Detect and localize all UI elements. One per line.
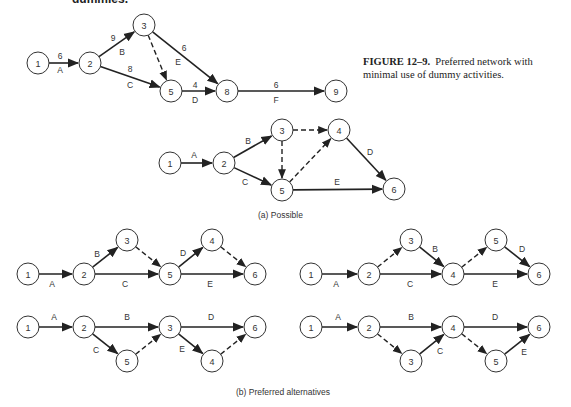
activity-duration: 6 (274, 80, 279, 90)
dummy-activity-4-5 (462, 334, 487, 354)
node-number: 1 (167, 159, 172, 169)
node-number: 4 (450, 270, 455, 280)
event-node: 5 (485, 229, 507, 251)
preferred-alt-1: ABCDE123546 (17, 229, 266, 289)
node-number: 6 (391, 185, 396, 195)
node-number: 6 (536, 323, 541, 333)
node-number: 2 (366, 323, 371, 333)
node-number: 2 (81, 270, 86, 280)
activity-label: C (127, 80, 133, 90)
node-number: 2 (221, 159, 226, 169)
node-number: 5 (493, 357, 498, 367)
event-node: 2 (213, 152, 235, 174)
event-node: 4 (442, 316, 464, 338)
event-node: 6 (383, 178, 405, 200)
activity-label: D (192, 95, 198, 105)
node-number: 1 (308, 323, 313, 333)
event-node: 5 (159, 263, 181, 285)
node-number: 5 (167, 270, 172, 280)
node-number: 4 (209, 357, 214, 367)
node-number: 1 (35, 59, 40, 69)
activity-duration: 8 (128, 64, 133, 74)
activity-label: B (432, 244, 438, 254)
node-number: 4 (209, 236, 214, 246)
event-node: 5 (485, 350, 507, 372)
activity-label: D (180, 248, 186, 258)
activity-label: A (51, 312, 57, 322)
activity-label: C (407, 279, 413, 289)
activity-label: B (94, 249, 100, 259)
activity-label: E (492, 279, 498, 289)
dummy-activity-2-3 (378, 334, 402, 354)
event-node: 6 (528, 263, 550, 285)
activity-3-8 (153, 32, 218, 84)
dummy-activity-3-5 (148, 35, 166, 80)
event-node: 3 (271, 119, 293, 141)
event-node: 1 (17, 263, 39, 285)
figure-caption: FIGURE 12–9. Preferred network with mini… (363, 56, 568, 81)
node-number: 4 (336, 126, 341, 136)
preferred-alt-2: ABCDE123456 (300, 229, 550, 289)
event-node: 8 (216, 80, 238, 102)
event-node: 6 (244, 316, 266, 338)
event-node: 4 (201, 229, 223, 251)
event-node: 3 (116, 229, 138, 251)
event-node: 3 (400, 350, 422, 372)
activity-5-6 (293, 189, 382, 190)
dummy-activity-4-5 (462, 247, 487, 267)
event-node: 1 (17, 316, 39, 338)
node-number: 3 (167, 323, 172, 333)
node-number: 3 (279, 126, 284, 136)
event-node: 4 (442, 263, 464, 285)
dummy-activity-4-6 (221, 247, 246, 267)
node-number: 3 (408, 357, 413, 367)
activity-duration: 9 (111, 33, 116, 43)
event-node: 1 (300, 316, 322, 338)
dummy-activity-5-4 (290, 139, 331, 182)
node-number: 5 (168, 87, 173, 97)
node-number: 1 (25, 323, 30, 333)
activity-label: E (179, 344, 185, 354)
event-node: 3 (133, 14, 155, 36)
subcaption-b: (b) Preferred alternatives (236, 387, 330, 397)
activity-label: A (49, 279, 55, 289)
top-network: A6B9C8E6D4F6123589 (27, 14, 347, 105)
activity-label: E (521, 347, 527, 357)
node-number: 5 (279, 186, 284, 196)
activity-duration: 6 (58, 51, 63, 61)
event-node: 1 (159, 152, 181, 174)
activity-label: A (57, 65, 63, 75)
activity-label: C (437, 346, 443, 356)
event-node: 5 (116, 350, 138, 372)
activity-label: C (122, 279, 128, 289)
figure-12-9: dummies. A6B9C8E6D4F6123589ABCDE123456AB… (0, 0, 571, 407)
event-node: 5 (160, 80, 182, 102)
activity-duration: 6 (182, 43, 187, 53)
activity-label: D (519, 244, 525, 254)
event-node: 3 (400, 229, 422, 251)
preferred-alt-3: ABCDE123546 (17, 312, 266, 372)
activity-label: E (175, 57, 181, 67)
event-node: 1 (27, 52, 49, 74)
activity-label: F (273, 95, 278, 105)
node-number: 8 (224, 87, 229, 97)
event-node: 6 (244, 263, 266, 285)
node-number: 2 (87, 59, 92, 69)
event-node: 4 (201, 350, 223, 372)
event-node: 9 (325, 80, 347, 102)
event-node: 6 (528, 316, 550, 338)
event-node: 2 (79, 52, 101, 74)
activity-label: C (93, 345, 99, 355)
dummy-activity-4-6 (221, 334, 246, 354)
activity-label: A (333, 279, 339, 289)
dummy-activity-5-3 (136, 334, 161, 354)
node-number: 5 (493, 236, 498, 246)
activity-label: B (119, 47, 125, 57)
node-number: 6 (252, 323, 257, 333)
node-number: 2 (81, 323, 86, 333)
dummy-activity-3-5 (136, 247, 161, 267)
event-node: 4 (328, 119, 350, 141)
activity-label: B (124, 312, 130, 322)
event-node: 1 (300, 263, 322, 285)
event-node: 2 (73, 263, 95, 285)
